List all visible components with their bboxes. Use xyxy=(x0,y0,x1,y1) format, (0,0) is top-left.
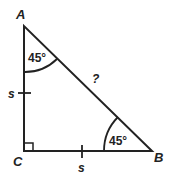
right-angle-mark xyxy=(24,143,33,151)
vertex-label-b: B xyxy=(154,150,163,165)
triangle-diagram: A C B s s ? 45° 45° xyxy=(0,0,170,183)
side-label-ab: ? xyxy=(92,72,100,86)
triangle-abc xyxy=(24,26,152,151)
side-label-ac: s xyxy=(8,87,15,101)
angle-label-a: 45° xyxy=(28,51,46,65)
vertex-label-a: A xyxy=(15,7,25,22)
side-label-cb: s xyxy=(78,161,85,175)
vertex-label-c: C xyxy=(13,154,23,169)
angle-label-b: 45° xyxy=(109,134,127,148)
